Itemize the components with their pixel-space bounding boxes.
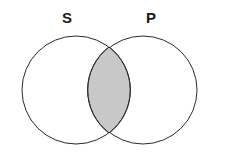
set-label-p: P [146,10,156,25]
set-label-s: S [62,10,72,25]
venn-diagram-figure: S P [0,0,225,158]
venn-diagram-canvas [0,0,225,158]
